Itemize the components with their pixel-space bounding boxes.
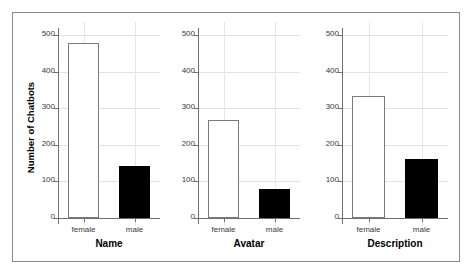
x-tick-label: male <box>126 225 143 234</box>
x-tick-label: male <box>266 225 283 234</box>
bar-avatar-female <box>208 120 240 218</box>
chart-figure: Number of Chatbots 0100200300400500femal… <box>0 0 473 277</box>
x-tick-label: male <box>413 225 430 234</box>
y-tick: 500 <box>198 35 203 36</box>
y-tick-label: 200 <box>42 139 55 148</box>
y-tick-label: 500 <box>42 29 55 38</box>
panel-title-description: Description <box>342 238 448 249</box>
gridline-horizontal <box>342 35 448 36</box>
y-tick-label: 400 <box>326 66 339 75</box>
gridline-horizontal <box>198 108 300 109</box>
y-tick-label: 200 <box>326 139 339 148</box>
y-tick-label: 500 <box>326 29 339 38</box>
y-tick-label: 100 <box>42 175 55 184</box>
plot-area <box>198 28 300 218</box>
y-tick: 500 <box>58 35 63 36</box>
gridline-horizontal <box>198 72 300 73</box>
gridline-horizontal <box>198 35 300 36</box>
y-tick-label: 500 <box>182 29 195 38</box>
x-tick-label: female <box>356 225 380 234</box>
y-tick-label: 200 <box>182 139 195 148</box>
y-tick: 400 <box>198 72 203 73</box>
y-tick-label: 300 <box>326 102 339 111</box>
x-tick-mark <box>275 218 276 222</box>
y-tick-label: 400 <box>42 66 55 75</box>
y-tick: 200 <box>58 145 63 146</box>
y-tick: 300 <box>58 108 63 109</box>
y-axis-line <box>198 28 199 224</box>
x-axis-line <box>58 218 160 219</box>
y-tick: 100 <box>342 181 347 182</box>
x-axis-line <box>198 218 300 219</box>
bar-avatar-male <box>259 189 291 218</box>
y-tick: 400 <box>342 72 347 73</box>
panel-description: 0100200300400500femalemaleDescription <box>312 22 452 254</box>
y-tick-label: 0 <box>335 212 339 221</box>
y-tick: 500 <box>342 35 347 36</box>
y-tick-label: 0 <box>51 212 55 221</box>
panel-avatar: 0100200300400500femalemaleAvatar <box>168 22 304 254</box>
y-tick: 100 <box>58 181 63 182</box>
y-tick-label: 0 <box>191 212 195 221</box>
x-tick-mark <box>422 218 423 222</box>
x-tick-mark <box>224 218 225 222</box>
panel-title-name: Name <box>58 238 160 249</box>
y-axis-label-container: Number of Chatbots <box>8 40 24 215</box>
y-axis-line <box>342 28 343 224</box>
y-tick-label: 300 <box>42 102 55 111</box>
x-tick-label: female <box>71 225 95 234</box>
y-tick-label: 300 <box>182 102 195 111</box>
y-tick: 200 <box>198 145 203 146</box>
x-axis-line <box>342 218 448 219</box>
y-tick: 200 <box>342 145 347 146</box>
gridline-horizontal <box>342 72 448 73</box>
gridline-horizontal <box>58 35 160 36</box>
y-tick: 300 <box>342 108 347 109</box>
x-tick-mark <box>84 218 85 222</box>
bar-name-male <box>119 166 151 218</box>
panel-name: 0100200300400500femalemaleName <box>28 22 164 254</box>
plot-area <box>58 28 160 218</box>
bar-description-female <box>352 96 385 218</box>
x-tick-mark <box>135 218 136 222</box>
y-tick: 100 <box>198 181 203 182</box>
y-tick-label: 100 <box>326 175 339 184</box>
bar-description-male <box>405 159 438 218</box>
y-tick-label: 100 <box>182 175 195 184</box>
x-tick-label: female <box>211 225 235 234</box>
x-tick-mark <box>369 218 370 222</box>
bar-name-female <box>68 43 100 218</box>
y-tick: 400 <box>58 72 63 73</box>
plot-area <box>342 28 448 218</box>
y-axis-line <box>58 28 59 224</box>
y-tick-label: 400 <box>182 66 195 75</box>
y-tick: 300 <box>198 108 203 109</box>
panel-title-avatar: Avatar <box>198 238 300 249</box>
